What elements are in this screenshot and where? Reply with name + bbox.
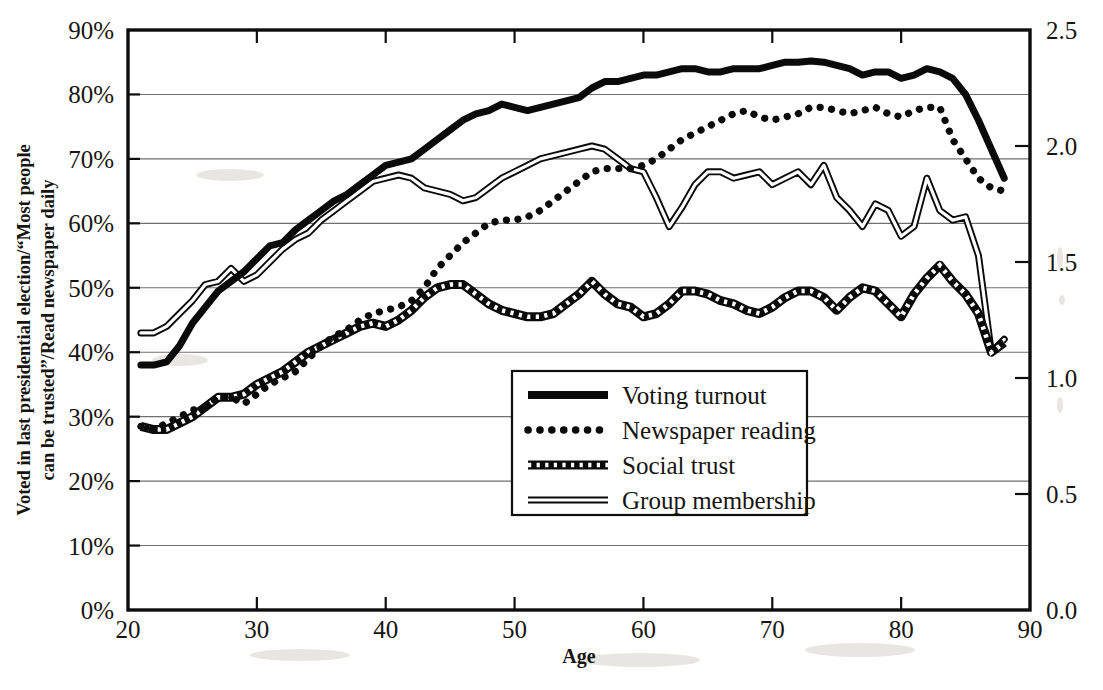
y2-tick-label: 2.5 xyxy=(1046,17,1077,44)
y-tick-labels: 0%10%20%30%40%50%60%70%80%90% xyxy=(68,17,114,624)
legend-label-social-trust: Social trust xyxy=(622,452,735,479)
line-chart: 2030405060708090 0%10%20%30%40%50%60%70%… xyxy=(0,0,1103,690)
y-tick-label: 10% xyxy=(68,533,114,560)
y-tick-label: 0% xyxy=(81,597,114,624)
y2-tick-labels: 0.00.51.01.52.02.5 xyxy=(1046,17,1077,624)
x-tick-label: 70 xyxy=(760,616,785,643)
y2-tick-label: 0.5 xyxy=(1046,481,1077,508)
x-tick-label: 20 xyxy=(116,616,141,643)
x-tick-labels: 2030405060708090 xyxy=(116,616,1043,643)
y-tick-label: 20% xyxy=(68,468,114,495)
y-axis-title-line1: Voted in last presidential election/“Mos… xyxy=(14,144,34,516)
y-tick-label: 50% xyxy=(68,275,114,302)
legend-label-newspaper-reading: Newspaper reading xyxy=(622,417,816,444)
y-tick-label: 40% xyxy=(68,339,114,366)
x-tick-label: 80 xyxy=(889,616,914,643)
y-tick-label: 60% xyxy=(68,210,114,237)
y-axis-title-line2: can be trusted”/Read newspaper daily xyxy=(38,179,58,481)
x-axis-title: Age xyxy=(562,645,595,668)
y-tick-label: 30% xyxy=(68,404,114,431)
legend-label-voting-turnout: Voting turnout xyxy=(622,382,767,409)
legend[interactable]: Voting turnoutNewspaper readingSocial tr… xyxy=(512,371,816,515)
y-tick-label: 70% xyxy=(68,146,114,173)
y2-tick-label: 1.0 xyxy=(1046,365,1077,392)
y2-tick-label: 1.5 xyxy=(1046,249,1077,276)
y-tick-label: 90% xyxy=(68,17,114,44)
y2-tick-label: 0.0 xyxy=(1046,597,1077,624)
legend-label-group-membership: Group membership xyxy=(622,487,816,514)
y-tick-label: 80% xyxy=(68,81,114,108)
y2-tick-label: 2.0 xyxy=(1046,133,1077,160)
x-tick-label: 50 xyxy=(502,616,527,643)
x-tick-label: 30 xyxy=(244,616,269,643)
x-tick-label: 90 xyxy=(1018,616,1043,643)
x-tick-label: 40 xyxy=(373,616,398,643)
x-tick-label: 60 xyxy=(631,616,656,643)
chart-container: 2030405060708090 0%10%20%30%40%50%60%70%… xyxy=(0,0,1103,690)
